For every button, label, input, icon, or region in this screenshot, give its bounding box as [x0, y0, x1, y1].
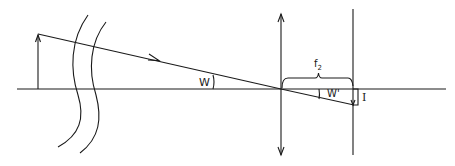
- break-curve-left: [58, 15, 88, 147]
- focal-length-subscript: 2: [318, 64, 322, 72]
- angle-w-arc: [213, 75, 214, 89]
- chief-ray-refracted: [281, 89, 354, 105]
- angle-w-label: W: [199, 77, 210, 88]
- break-curve-right: [80, 22, 106, 153]
- image-height-label: I: [362, 92, 366, 103]
- optics-diagram: [0, 0, 455, 166]
- focal-length-label: f2: [314, 59, 322, 72]
- angle-w-prime-label: W': [327, 89, 340, 99]
- angle-w-prime-arc: [319, 89, 320, 99]
- focal-length-brace: [282, 73, 353, 88]
- ray-direction-arrowhead-icon: [148, 54, 159, 61]
